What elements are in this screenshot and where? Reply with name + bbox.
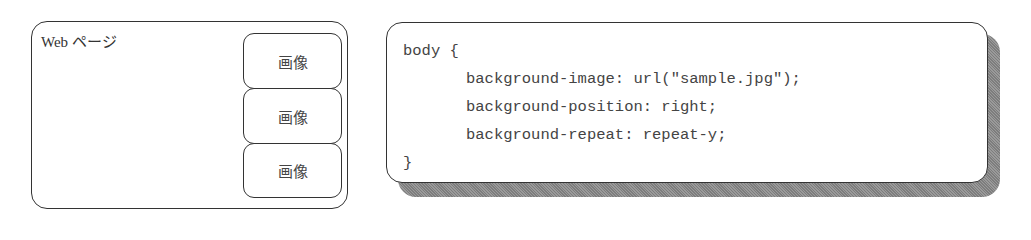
code-line-background-position: background-position: right; bbox=[403, 93, 801, 121]
webpage-label: Web ページ bbox=[41, 30, 117, 51]
code-line-background-image: background-image: url("sample.jpg"); bbox=[403, 65, 801, 93]
image-tile-label: 画像 bbox=[278, 106, 308, 127]
image-tile-label: 画像 bbox=[278, 51, 308, 72]
image-tile-1: 画像 bbox=[243, 33, 342, 89]
webpage-frame: Web ページ 画像 画像 画像 bbox=[31, 21, 348, 209]
css-code-panel: body {background-image: url("sample.jpg"… bbox=[386, 22, 988, 183]
code-line-close-brace: } bbox=[403, 149, 801, 177]
css-code-block: body {background-image: url("sample.jpg"… bbox=[403, 37, 801, 177]
image-tile-2: 画像 bbox=[243, 88, 342, 144]
code-line-background-repeat: background-repeat: repeat-y; bbox=[403, 121, 801, 149]
image-tile-label: 画像 bbox=[278, 160, 308, 181]
image-tile-3: 画像 bbox=[243, 143, 342, 198]
code-line-selector: body { bbox=[403, 37, 801, 65]
